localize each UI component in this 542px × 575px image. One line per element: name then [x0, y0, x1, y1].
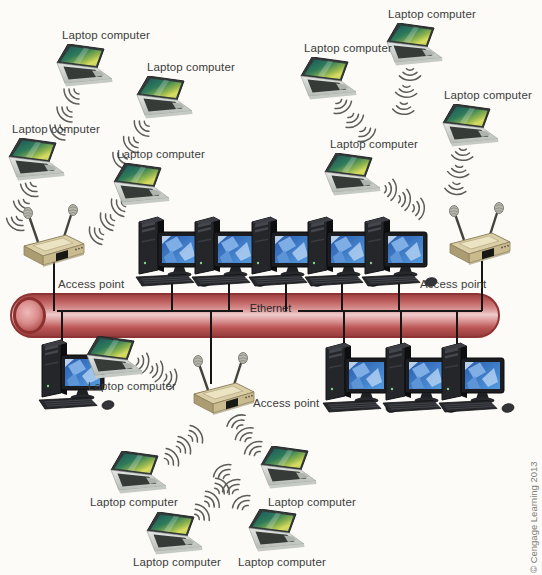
laptop-label: Laptop computer	[62, 29, 150, 41]
laptop-icon	[260, 446, 318, 489]
laptop-icon	[146, 512, 204, 555]
connection-line	[228, 283, 230, 311]
connection-line	[398, 283, 400, 311]
wifi-waves-icon	[207, 455, 235, 483]
laptop-icon	[113, 163, 171, 206]
connection-line	[285, 283, 287, 311]
access-point-label: Access point	[253, 397, 319, 409]
laptop-icon	[324, 153, 382, 196]
copyright-text: © Cengage Learning 2013	[528, 433, 539, 573]
connection-line	[341, 283, 343, 311]
laptop-label: Laptop computer	[90, 496, 178, 508]
access-point-icon	[18, 204, 90, 274]
laptop-label: Laptop computer	[88, 380, 176, 392]
laptop-icon	[442, 104, 500, 147]
ethernet-label: Ethernet	[243, 302, 298, 314]
access-point-label: Access point	[58, 278, 124, 290]
connection-line	[171, 283, 173, 311]
laptop-label: Laptop computer	[268, 496, 356, 508]
laptop-label: Laptop computer	[444, 89, 532, 101]
ethernet-bus-line-right	[298, 310, 482, 312]
laptop-icon	[136, 76, 194, 119]
laptop-label: Laptop computer	[304, 42, 392, 54]
laptop-icon	[86, 336, 144, 379]
wifi-waves-icon	[184, 419, 212, 447]
desktop-computer-icon	[436, 339, 522, 413]
laptop-label: Laptop computer	[133, 556, 221, 568]
laptop-icon	[110, 451, 168, 494]
ethernet-bus-line-left	[57, 310, 243, 312]
laptop-label: Laptop computer	[117, 148, 205, 160]
laptop-icon	[386, 23, 444, 66]
access-point-icon	[188, 352, 260, 422]
laptop-label: Laptop computer	[388, 8, 476, 20]
laptop-label: Laptop computer	[147, 61, 235, 73]
access-point-label: Access point	[420, 278, 486, 290]
laptop-icon	[300, 57, 358, 100]
laptop-icon	[248, 509, 306, 552]
laptop-icon	[56, 44, 114, 87]
desktop-computer-icon	[359, 213, 445, 287]
laptop-icon	[8, 138, 66, 181]
laptop-label: Laptop computer	[238, 556, 326, 568]
laptop-label: Laptop computer	[12, 123, 100, 135]
network-diagram: Ethernet © Cengage Learning 2013	[0, 0, 542, 575]
access-point-icon	[444, 202, 516, 272]
ethernet-pipe-end-cap	[13, 297, 46, 334]
laptop-label: Laptop computer	[330, 138, 418, 150]
ethernet-pipe	[10, 293, 500, 338]
